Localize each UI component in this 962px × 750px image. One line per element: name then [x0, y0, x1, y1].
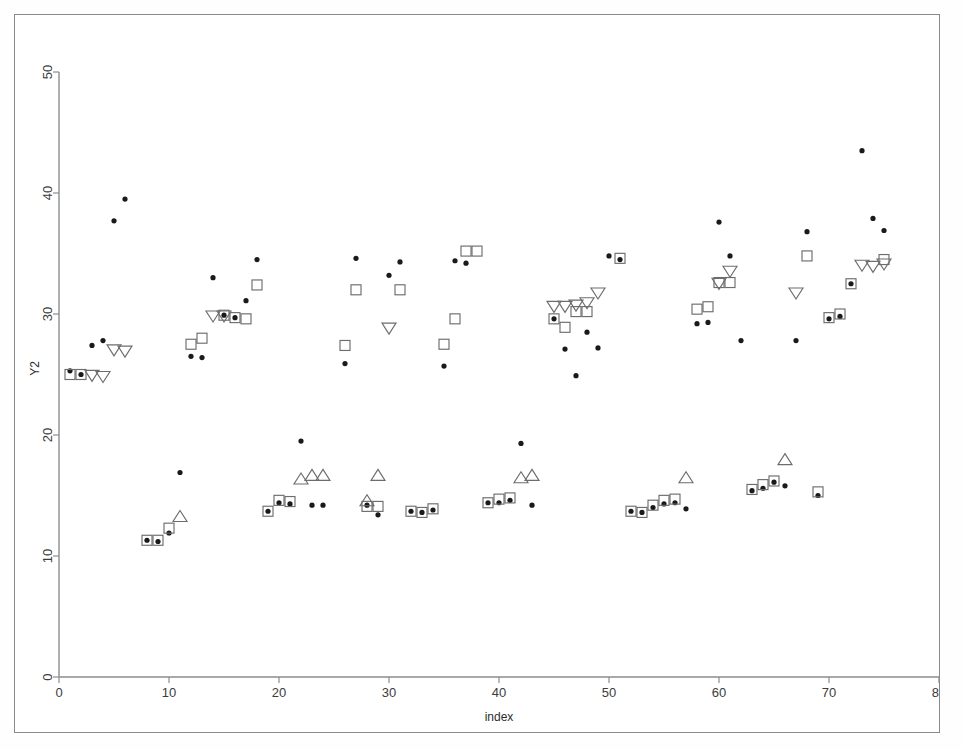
marker-dot [804, 229, 809, 234]
marker-dot [584, 330, 589, 335]
y-tick-label: 50 [40, 65, 55, 79]
marker-square [373, 501, 383, 511]
marker-dot [573, 373, 578, 378]
marker-dot [529, 503, 534, 508]
marker-dot [144, 538, 149, 543]
marker-dot [507, 498, 512, 503]
marker-triangle-down [866, 261, 880, 272]
marker-triangle-up [514, 472, 528, 483]
marker-square [351, 285, 361, 295]
y-axis-title: Y2 [28, 361, 42, 376]
scan-border: 0102030405001020304050607080 index Y2 [14, 14, 940, 733]
marker-dot [870, 216, 875, 221]
marker-dot [89, 343, 94, 348]
marker-dot [859, 148, 864, 153]
marker-dot [298, 438, 303, 443]
axes-group: 0102030405001020304050607080 [40, 65, 940, 700]
marker-dot [683, 506, 688, 511]
marker-dot [199, 355, 204, 360]
y-tick-label: 20 [40, 428, 55, 442]
y-tick-label: 10 [40, 549, 55, 563]
marker-dot [375, 512, 380, 517]
marker-dot [111, 218, 116, 223]
marker-square [241, 314, 251, 324]
marker-dot [397, 259, 402, 264]
marker-dot [243, 298, 248, 303]
marker-square [725, 278, 735, 288]
marker-dot [232, 315, 237, 320]
marker-square [714, 278, 724, 288]
marker-triangle-up [525, 469, 539, 480]
marker-dot [254, 257, 259, 262]
marker-dot [309, 503, 314, 508]
marker-dot [287, 501, 292, 506]
x-tick-label: 80 [932, 685, 939, 700]
marker-square [186, 339, 196, 349]
marker-square [461, 246, 471, 256]
marker-dot [562, 346, 567, 351]
marker-dot [441, 363, 446, 368]
marker-dot [100, 338, 105, 343]
marker-dot [430, 507, 435, 512]
marker-dot [639, 510, 644, 515]
marker-triangle-up [371, 469, 385, 480]
marker-triangle-down [118, 346, 132, 357]
marker-dot [738, 338, 743, 343]
marker-dot [771, 480, 776, 485]
x-tick-label: 70 [822, 685, 836, 700]
marker-dot [210, 275, 215, 280]
marker-square [395, 285, 405, 295]
x-tick-label: 30 [382, 685, 396, 700]
marker-dot [595, 345, 600, 350]
marker-dot [617, 257, 622, 262]
marker-dot [749, 488, 754, 493]
marker-square [802, 251, 812, 261]
x-tick-label: 20 [272, 685, 286, 700]
marker-dot [551, 316, 556, 321]
x-tick-label: 10 [162, 685, 176, 700]
markers-group [65, 148, 891, 545]
scatter-plot: 0102030405001020304050607080 index Y2 [15, 15, 939, 732]
marker-dot [694, 321, 699, 326]
marker-dot [155, 539, 160, 544]
marker-dot [342, 361, 347, 366]
marker-dot [650, 505, 655, 510]
x-tick-label: 0 [55, 685, 62, 700]
marker-dot [177, 470, 182, 475]
marker-triangle-up [679, 472, 693, 483]
marker-dot [276, 500, 281, 505]
y-tick-label: 0 [40, 673, 55, 680]
marker-square [703, 302, 713, 312]
marker-triangle-down [382, 323, 396, 334]
marker-dot [463, 261, 468, 266]
marker-dot [782, 483, 787, 488]
marker-triangle-down [723, 266, 737, 277]
marker-dot [606, 253, 611, 258]
y-tick-label: 40 [40, 186, 55, 200]
marker-square [472, 246, 482, 256]
marker-square [450, 314, 460, 324]
marker-dot [705, 320, 710, 325]
marker-dot [727, 253, 732, 258]
marker-square [560, 322, 570, 332]
marker-square [439, 339, 449, 349]
marker-dot [188, 354, 193, 359]
marker-dot [386, 273, 391, 278]
marker-dot [716, 219, 721, 224]
y-tick-label: 30 [40, 307, 55, 321]
marker-dot [78, 372, 83, 377]
marker-dot [221, 313, 226, 318]
x-tick-label: 60 [712, 685, 726, 700]
marker-square [340, 340, 350, 350]
marker-triangle-down [96, 372, 110, 383]
marker-dot [518, 441, 523, 446]
marker-square [197, 333, 207, 343]
marker-dot [848, 281, 853, 286]
marker-square [692, 304, 702, 314]
marker-dot [122, 196, 127, 201]
marker-triangle-up [778, 454, 792, 465]
figure-page: 0102030405001020304050607080 index Y2 [0, 0, 962, 750]
marker-dot [881, 228, 886, 233]
x-axis-title: index [485, 710, 514, 724]
marker-dot [419, 510, 424, 515]
